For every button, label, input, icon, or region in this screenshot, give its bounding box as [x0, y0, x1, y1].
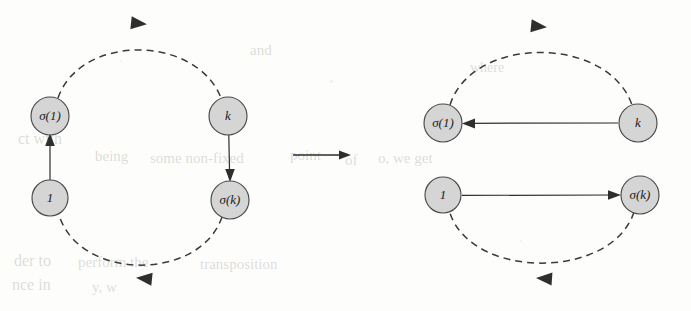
- dashed-edge-sigmak-to-one: [450, 212, 634, 286]
- node-label-one: 1: [440, 187, 447, 202]
- node-k[interactable]: k: [619, 104, 657, 142]
- solid-edge-k-to-sigma1: [462, 119, 618, 129]
- figure-canvas: ct with being some non-fixed point of o,…: [0, 0, 691, 311]
- node-label-sigma1: σ(1): [39, 108, 61, 123]
- node-label-sigmak: σ(k): [220, 192, 241, 207]
- node-label-sigmak: σ(k): [630, 187, 651, 202]
- right-graph: σ(1) 1 k σ(k): [424, 19, 659, 285]
- node-label-k: k: [635, 115, 641, 130]
- solid-edge-one-to-sigmak: [462, 190, 621, 200]
- node-label-k: k: [225, 108, 231, 123]
- dashed-edge-sigma1-to-k: [450, 19, 632, 105]
- node-label-one: 1: [47, 190, 54, 205]
- solid-edge-one-to-sigma1: [45, 133, 55, 180]
- permutation-diagram: σ(1) 1 k σ(k): [0, 0, 691, 311]
- transform-arrow: [293, 151, 351, 160]
- node-sigmak[interactable]: σ(k): [211, 181, 249, 219]
- dashed-edge-sigmak-to-one: [60, 217, 222, 286]
- dashed-edge-sigma1-to-k: [58, 16, 221, 98]
- node-label-sigma1: σ(1): [432, 115, 454, 130]
- node-sigma1[interactable]: σ(1): [424, 104, 462, 142]
- node-one[interactable]: 1: [425, 177, 461, 213]
- node-one[interactable]: 1: [32, 180, 68, 216]
- solid-edge-k-to-sigmak: [225, 135, 235, 182]
- node-k[interactable]: k: [209, 97, 247, 135]
- left-graph: σ(1) 1 k σ(k): [31, 16, 249, 286]
- node-sigmak[interactable]: σ(k): [621, 176, 659, 214]
- node-sigma1[interactable]: σ(1): [31, 97, 69, 135]
